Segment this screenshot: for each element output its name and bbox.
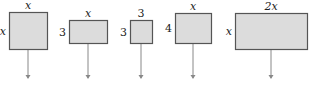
tile-side-label: x	[226, 25, 233, 38]
tile-side-label: 3	[59, 26, 66, 39]
tile-top-label: x	[25, 0, 32, 12]
tile-rect	[10, 13, 48, 50]
tile-rect	[236, 14, 308, 50]
arrow-down-icon	[191, 75, 196, 79]
tile-1: xx	[0, 0, 48, 79]
tile-5: 2xx	[226, 0, 308, 79]
diagram-svg: xxx333x42xx	[0, 0, 311, 90]
tile-side-label: 4	[165, 22, 172, 35]
area-tiles-diagram: xxx333x42xx	[0, 0, 311, 90]
tile-top-label: 2x	[263, 0, 278, 13]
tile-top-label: x	[190, 0, 197, 13]
arrow-down-icon	[269, 75, 274, 79]
arrow-down-icon	[139, 75, 144, 79]
arrow-down-icon	[26, 75, 31, 79]
tile-top-label: 3	[138, 7, 145, 20]
tile-side-label: 3	[120, 26, 127, 39]
tile-top-label: x	[85, 7, 92, 20]
tile-4: x4	[165, 0, 212, 79]
arrow-down-icon	[86, 75, 91, 79]
tile-side-label: x	[0, 25, 7, 38]
tile-3: 33	[120, 7, 153, 79]
tile-rect	[176, 14, 212, 44]
tile-rect	[131, 21, 153, 44]
tile-2: x3	[59, 7, 108, 79]
tile-rect	[70, 21, 108, 44]
